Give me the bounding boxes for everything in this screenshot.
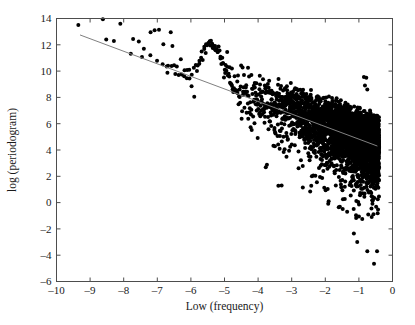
x-tick-label: –9 xyxy=(84,284,97,296)
x-axis-title: Low (frequency) xyxy=(186,300,264,313)
y-tick-label: 0 xyxy=(46,196,52,208)
x-tick-label: –5 xyxy=(218,284,231,296)
y-tick-label: 2 xyxy=(46,170,52,182)
x-tick-label: 0 xyxy=(390,284,396,296)
y-tick-label: 6 xyxy=(46,118,52,130)
y-axis-title: log (periodogram) xyxy=(6,108,19,192)
y-tick-label: 10 xyxy=(41,65,53,77)
x-tick-label: –4 xyxy=(252,284,265,296)
x-tick-label: –6 xyxy=(184,284,197,296)
y-tick-label: 14 xyxy=(41,12,53,24)
x-tick-label: –3 xyxy=(285,284,298,296)
figure-container: –10–9–8–7–6–5–4–3–2–10–6–4–202468101214L… xyxy=(0,0,415,325)
x-tick-label: –1 xyxy=(352,284,364,296)
x-tick-label: –2 xyxy=(319,284,331,296)
x-tick-label: –8 xyxy=(117,284,130,296)
y-tick-label: –2 xyxy=(40,223,52,235)
y-tick-label: 8 xyxy=(46,91,52,103)
y-tick-label: 12 xyxy=(41,39,52,51)
scatter-plot: –10–9–8–7–6–5–4–3–2–10–6–4–202468101214L… xyxy=(0,0,415,325)
x-tick-label: –7 xyxy=(151,284,164,296)
y-tick-label: –6 xyxy=(40,275,53,287)
y-tick-label: –4 xyxy=(40,249,53,261)
y-tick-label: 4 xyxy=(46,144,52,156)
